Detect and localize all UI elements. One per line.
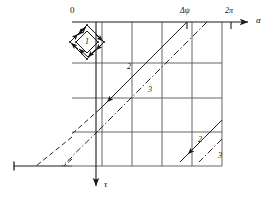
tau-axis-label: τ — [104, 180, 107, 189]
lower-left-extension-lines — [36, 137, 72, 166]
alpha-axis-ticks — [187, 22, 231, 29]
solid-line-label-2-upper: 2 — [127, 63, 131, 71]
dashdot-line-label-3-upper: 3 — [148, 86, 152, 94]
solid-line-direction-arrows — [107, 89, 200, 154]
delta-psi-tick-label: Δψ — [180, 7, 190, 15]
solid-line-label-2-lower: 2 — [198, 136, 202, 144]
two-pi-tick-label: 2π — [225, 7, 233, 15]
dashed-continuation-solid-upper — [36, 109, 100, 166]
extension-dashed-a — [36, 137, 72, 166]
diagram-svg — [0, 0, 273, 198]
alpha-axis-label: α — [256, 16, 261, 25]
dashdot-line-label-3-lower: 3 — [218, 152, 222, 160]
origin-label: 0 — [70, 6, 75, 15]
figure-canvas: 0 Δψ 2π α τ 1 2 3 2 3 — [0, 0, 273, 198]
extension-dashdot-a — [62, 157, 72, 166]
bottom-extension-line — [14, 162, 72, 171]
grid — [72, 22, 222, 166]
rhombus-label-1: 1 — [85, 38, 89, 46]
dashdot-line-upper — [98, 22, 207, 131]
arrow-solid-upper — [107, 89, 120, 102]
grid-inner-extensions — [36, 109, 100, 166]
solid-characteristic-lines — [100, 22, 222, 162]
